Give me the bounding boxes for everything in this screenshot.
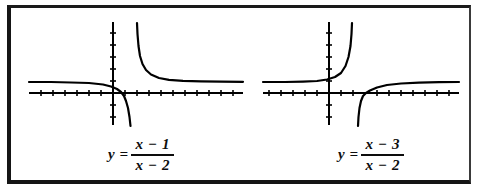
equation-left-numerator: x − 1 bbox=[131, 136, 174, 153]
fraction-bar bbox=[131, 154, 174, 156]
x-axis-left bbox=[29, 90, 243, 96]
figure-frame: y = x − 1 x − 2 bbox=[7, 5, 471, 184]
y-axis-right bbox=[326, 22, 332, 125]
y-axis-left bbox=[110, 22, 116, 125]
curve-right-branch-2 bbox=[358, 82, 459, 126]
equation-left-lhs: y = bbox=[108, 146, 131, 163]
curve-left-branch-2 bbox=[137, 23, 243, 82]
plot-right bbox=[251, 8, 471, 133]
x-axis-right bbox=[263, 90, 459, 96]
equation-right-denominator: x − 2 bbox=[361, 157, 404, 174]
equation-right-numerator: x − 3 bbox=[361, 136, 404, 153]
equation-left-fraction: x − 1 x − 2 bbox=[131, 136, 174, 174]
curve-left-branch-1 bbox=[29, 82, 131, 126]
equation-left-denominator: x − 2 bbox=[131, 157, 174, 174]
fraction-bar bbox=[361, 154, 404, 156]
equation-right-fraction: x − 3 x − 2 bbox=[361, 136, 404, 174]
figure-root: y = x − 1 x − 2 bbox=[0, 0, 480, 195]
equation-left: y = x − 1 x − 2 bbox=[51, 136, 231, 174]
graph-panel-left: y = x − 1 x − 2 bbox=[11, 8, 251, 187]
curve-right-branch-1 bbox=[263, 23, 352, 82]
equation-right-lhs: y = bbox=[338, 146, 361, 163]
graph-panel-right: y = x − 3 x − 2 bbox=[251, 8, 471, 187]
equation-right: y = x − 3 x − 2 bbox=[281, 136, 461, 174]
plot-left bbox=[11, 8, 251, 133]
